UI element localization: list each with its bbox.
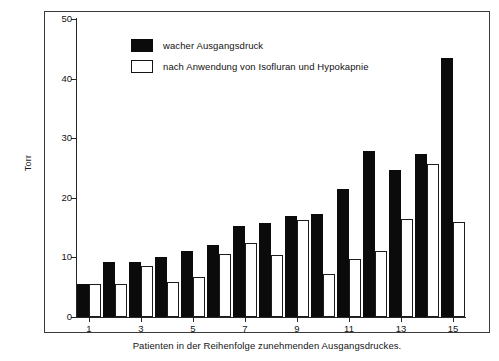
x-tick-label-9: 9 xyxy=(294,323,299,334)
x-tick-label-3: 3 xyxy=(138,323,143,334)
figure: Torr wacher Ausgangsdruck nach Anwendung… xyxy=(0,0,499,361)
bar-dark-3 xyxy=(129,262,141,317)
y-tick-label: 50 xyxy=(61,13,72,24)
bar-light-10 xyxy=(323,274,335,317)
bar-dark-7 xyxy=(233,226,245,317)
x-tick-mark-5 xyxy=(193,317,194,322)
y-tick-10: 10 xyxy=(76,257,77,258)
x-tick-mark-1 xyxy=(89,317,90,322)
x-tick-mark-7 xyxy=(245,317,246,322)
y-tick-label: 40 xyxy=(61,73,72,84)
bar-light-6 xyxy=(219,254,231,317)
bar-light-8 xyxy=(271,255,283,317)
bar-light-1 xyxy=(89,284,101,317)
y-tick-50: 50 xyxy=(76,19,77,20)
bar-dark-15 xyxy=(441,58,453,317)
bar-light-2 xyxy=(115,284,127,317)
bar-dark-6 xyxy=(207,245,219,317)
bar-light-5 xyxy=(193,277,205,317)
y-tick-label: 30 xyxy=(61,132,72,143)
y-axis-label: Torr xyxy=(23,133,33,193)
y-tick-30: 30 xyxy=(76,138,77,139)
y-axis-line xyxy=(76,18,77,318)
bar-light-12 xyxy=(375,251,387,317)
x-tick-label-5: 5 xyxy=(190,323,195,334)
bar-light-7 xyxy=(245,243,257,317)
x-axis-line xyxy=(76,317,466,318)
x-tick-label-1: 1 xyxy=(86,323,91,334)
x-tick-mark-13 xyxy=(401,317,402,322)
x-tick-label-13: 13 xyxy=(396,323,407,334)
y-tick-label: 10 xyxy=(61,251,72,262)
bar-dark-10 xyxy=(311,214,323,317)
bar-dark-5 xyxy=(181,251,193,317)
bar-dark-1 xyxy=(77,284,89,317)
x-tick-mark-9 xyxy=(297,317,298,322)
bar-light-3 xyxy=(141,266,153,317)
x-tick-label-7: 7 xyxy=(242,323,247,334)
bar-light-14 xyxy=(427,164,439,317)
x-tick-label-15: 15 xyxy=(448,323,459,334)
bar-dark-8 xyxy=(259,223,271,317)
bar-dark-11 xyxy=(337,189,349,317)
bar-dark-13 xyxy=(389,170,401,317)
y-tick-20: 20 xyxy=(76,198,77,199)
bar-light-11 xyxy=(349,259,361,317)
bar-dark-9 xyxy=(285,216,297,317)
x-tick-mark-11 xyxy=(349,317,350,322)
bar-light-4 xyxy=(167,282,179,317)
bar-dark-12 xyxy=(363,151,375,317)
bar-light-15 xyxy=(453,222,465,317)
x-axis-caption: Patienten in der Reihenfolge zunehmenden… xyxy=(44,340,490,351)
y-tick-label: 0 xyxy=(67,311,72,322)
bar-dark-2 xyxy=(103,262,115,317)
y-tick-0: 0 xyxy=(76,317,77,318)
chart-axes: 01020304050 13579111315 xyxy=(76,19,466,317)
x-tick-mark-15 xyxy=(453,317,454,322)
bar-light-9 xyxy=(297,220,309,317)
x-tick-mark-3 xyxy=(141,317,142,322)
y-tick-40: 40 xyxy=(76,79,77,80)
bar-dark-14 xyxy=(415,154,427,317)
bar-dark-4 xyxy=(155,257,167,317)
x-tick-label-11: 11 xyxy=(344,323,354,334)
y-tick-label: 20 xyxy=(61,192,72,203)
bar-light-13 xyxy=(401,219,413,317)
